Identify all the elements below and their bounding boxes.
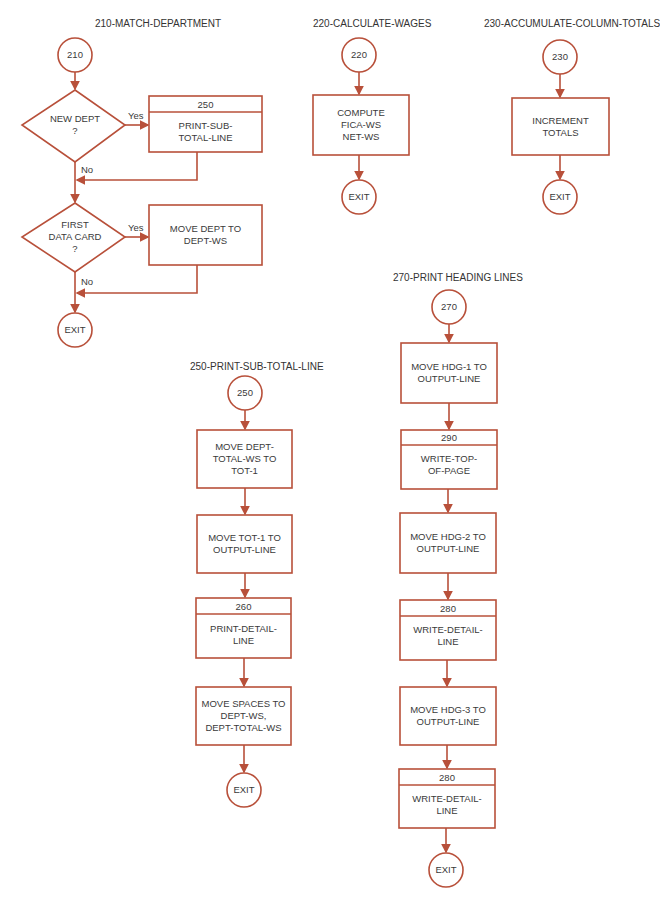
title-250: 250-PRINT-SUB-TOTAL-LINE — [190, 361, 324, 372]
start-label-230: 230 — [543, 51, 577, 63]
box-move-spaces-text: MOVE SPACES TO DEPT-WS, DEPT-TOTAL-WS — [196, 698, 291, 734]
decision2-no-label: No — [81, 276, 93, 287]
box-260-text: PRINT-DETAIL- LINE — [196, 623, 291, 647]
box-250-number: 250 — [149, 99, 262, 111]
box-250-text: PRINT-SUB- TOTAL-LINE — [149, 120, 262, 144]
box-260-number: 260 — [196, 601, 291, 613]
title-270: 270-PRINT HEADING LINES — [393, 272, 523, 283]
start-label-250: 250 — [228, 387, 262, 399]
box-compute-text: COMPUTE FICA-WS NET-WS — [313, 107, 409, 143]
section-210 — [22, 38, 262, 347]
exit-label-210: EXIT — [58, 324, 92, 336]
decision2-label: FIRST DATA CARD ? — [35, 219, 115, 255]
box-move-hdg3-text: MOVE HDG-3 TO OUTPUT-LINE — [400, 704, 496, 728]
start-label-270: 270 — [432, 301, 466, 313]
box-increment-text: INCREMENT TOTALS — [512, 115, 609, 139]
start-label-220: 220 — [342, 49, 376, 61]
title-220: 220-CALCULATE-WAGES — [313, 18, 431, 29]
title-230: 230-ACCUMULATE-COLUMN-TOTALS — [484, 18, 660, 29]
box-280-number-1: 280 — [400, 603, 496, 615]
box-move-hdg1-text: MOVE HDG-1 TO OUTPUT-LINE — [401, 361, 497, 385]
box-280-text-2: WRITE-DETAIL- LINE — [399, 793, 495, 817]
decision1-no-label: No — [81, 164, 93, 175]
exit-label-220: EXIT — [342, 191, 376, 203]
box-move-hdg2-text: MOVE HDG-2 TO OUTPUT-LINE — [400, 531, 496, 555]
title-210: 210-MATCH-DEPARTMENT — [95, 18, 221, 29]
decision2-yes-label: Yes — [128, 222, 144, 233]
box-move-dept-total-text: MOVE DEPT- TOTAL-WS TO TOT-1 — [197, 441, 292, 477]
exit-label-250: EXIT — [227, 784, 261, 796]
box-280-number-2: 280 — [399, 772, 495, 784]
box-290-number: 290 — [401, 432, 497, 444]
box-move-tot1-text: MOVE TOT-1 TO OUTPUT-LINE — [197, 532, 292, 556]
decision1-label: NEW DEPT ? — [35, 113, 115, 137]
start-label-210: 210 — [58, 49, 92, 61]
box-290-text: WRITE-TOP- OF-PAGE — [401, 453, 497, 477]
exit-label-230: EXIT — [543, 191, 577, 203]
decision1-yes-label: Yes — [128, 110, 144, 121]
exit-label-270: EXIT — [429, 864, 463, 876]
box-280-text-1: WRITE-DETAIL- LINE — [400, 624, 496, 648]
box-move-dept-text: MOVE DEPT TO DEPT-WS — [149, 223, 262, 247]
